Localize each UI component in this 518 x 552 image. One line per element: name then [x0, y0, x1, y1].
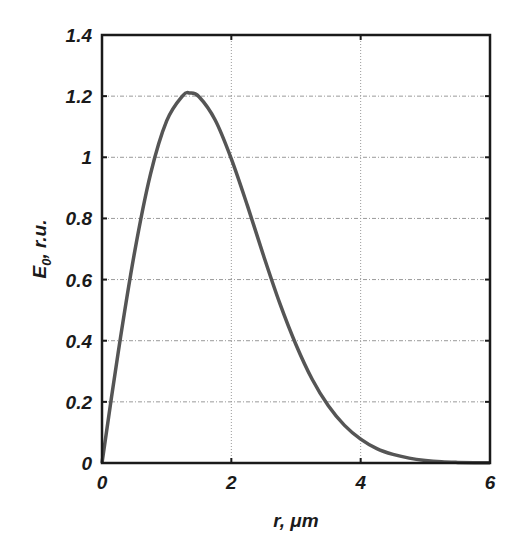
y-tick-label: 0 [81, 453, 92, 474]
x-axis-label: r, μm [273, 510, 318, 531]
grid-lines [102, 35, 490, 463]
y-tick-label: 0.4 [66, 331, 93, 352]
plot-area-frame [102, 35, 490, 463]
y-tick-label: 0.2 [66, 392, 93, 413]
x-tick-label: 4 [354, 472, 366, 493]
y-tick-label: 1.2 [66, 86, 93, 107]
y-axis-label: E0, r.u. [29, 220, 54, 279]
y-axis-label-rest: , r.u. [29, 220, 50, 260]
x-axis-tick-labels: 0246 [97, 472, 496, 493]
chart: 00.20.40.60.811.21.4 0246 r, μm E0, r.u. [0, 0, 518, 552]
x-tick-label: 0 [97, 472, 108, 493]
y-tick-label: 0.6 [66, 270, 93, 291]
y-axis-tick-labels: 00.20.40.60.811.21.4 [66, 25, 93, 474]
series-line [102, 92, 490, 463]
x-tick-label: 2 [225, 472, 237, 493]
x-tick-label: 6 [485, 472, 496, 493]
y-tick-label: 1.4 [66, 25, 93, 46]
y-tick-label: 1 [81, 147, 92, 168]
tick-marks [102, 35, 490, 463]
y-tick-label: 0.8 [66, 208, 93, 229]
data-series [102, 92, 490, 463]
